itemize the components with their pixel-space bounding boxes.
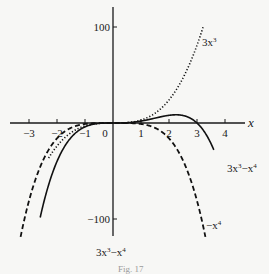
chart: x −3−2−101234 100−100 3x3 3x3−x4 −x4 3x3… — [0, 0, 269, 274]
x-tick-label: −3 — [23, 127, 35, 139]
y-tick-label: 100 — [94, 21, 111, 33]
figure-caption: Fig. 17 — [118, 264, 144, 274]
label-neg-x4: −x4 — [206, 219, 222, 231]
label-3x3: 3x3 — [202, 36, 217, 48]
sup-3: 3 — [213, 36, 217, 44]
curves — [21, 27, 214, 237]
label-3x3-minus-x4-bottom: 3x3−x4 — [96, 246, 126, 258]
x-tick-label: 4 — [222, 127, 228, 139]
y-tick-label: −100 — [87, 213, 110, 225]
curve-labels: 3x3 3x3−x4 −x4 3x3−x4 — [96, 36, 257, 258]
label-3x3-minus-x4-right: 3x3−x4 — [227, 162, 257, 174]
x-tick-label: 3 — [194, 127, 200, 139]
series-line-solid — [40, 115, 214, 218]
series-line-dotted — [49, 27, 204, 158]
x-tick-label: 0 — [102, 127, 108, 139]
x-axis-label: x — [247, 115, 254, 130]
x-tick-label: 1 — [138, 127, 144, 139]
